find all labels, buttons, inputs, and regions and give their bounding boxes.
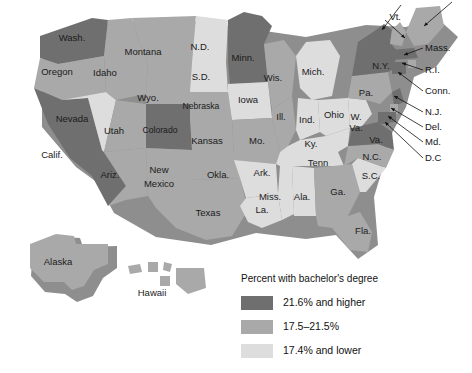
state-label-nc: N.C.: [363, 151, 382, 162]
legend-swatch-high: [241, 296, 273, 310]
state-label-ariz: Ariz.: [101, 169, 120, 180]
state-label-calif: Calif.: [41, 149, 63, 160]
state-rhodeisland: [408, 60, 416, 68]
state-label-mo: Mo.: [249, 135, 265, 146]
us-choropleth-map-figure: Wash.OregonIdahoMontanaWyo.N.D.S.D.Minn.…: [0, 0, 472, 373]
callout-label-del: Del.: [425, 121, 442, 132]
state-label-idaho: Idaho: [93, 67, 117, 78]
state-label-kansas: Kansas: [191, 135, 223, 146]
callout-label-md: Md.: [425, 136, 441, 147]
callout-label-mass: Mass.: [425, 42, 450, 53]
state-label-miss: Miss.: [259, 191, 281, 202]
callout-label-dc: D.C: [425, 152, 442, 163]
state-label-okla: Okla.: [207, 169, 229, 180]
state-label-ark: Ark.: [254, 167, 271, 178]
state-label-wyo: Wyo.: [137, 92, 159, 103]
state-label-ga: Ga.: [330, 186, 345, 197]
state-label-montana: Montana: [125, 46, 163, 57]
state-label-ohio: Ohio: [324, 109, 344, 120]
state-label-sd: S.D.: [192, 71, 210, 82]
state-label-la: La.: [255, 204, 268, 215]
state-label-utah: Utah: [104, 125, 124, 136]
state-label-alaska: Alaska: [44, 256, 73, 267]
state-label-nevada: Nevada: [56, 113, 89, 124]
map-canvas: Wash.OregonIdahoMontanaWyo.N.D.S.D.Minn.…: [0, 0, 472, 373]
state-label-va: Va.: [369, 134, 383, 145]
state-northdakota: [192, 16, 228, 62]
state-label-oregon: Oregon: [41, 66, 73, 77]
state-label-fla: Fla.: [355, 225, 371, 236]
legend-label-low: 17.4% and lower: [283, 344, 362, 356]
state-label-sc: S.C.: [362, 170, 380, 181]
state-label-iowa: Iowa: [238, 94, 259, 105]
state-label-wis: Wis.: [264, 72, 282, 83]
callout-label-ri: R.I.: [425, 64, 440, 75]
map-legend: Percent with bachelor's degree 21.6% and…: [241, 273, 378, 358]
state-label-colorado: Colorado: [143, 125, 178, 135]
state-label-nebraska: Nebraska: [183, 101, 220, 111]
callout-label-nj: N.J.: [425, 106, 442, 117]
legend-swatch-low: [241, 344, 273, 358]
state-label-texas: Texas: [196, 207, 221, 218]
state-label-ky: Ky.: [304, 138, 317, 149]
state-label-mich: Mich.: [302, 66, 325, 77]
state-label-newmexico2: Mexico: [144, 178, 174, 189]
state-label-ala: Ala.: [294, 191, 310, 202]
legend-label-high: 21.6% and higher: [283, 296, 366, 308]
state-label-pa: Pa.: [359, 87, 373, 98]
state-label-wash: Wash.: [59, 32, 86, 43]
state-label-ill: Ill.: [276, 111, 286, 122]
state-label-newmexico1: New: [149, 164, 168, 175]
state-label-ind: Ind.: [299, 114, 315, 125]
state-label-wva2: Va.: [349, 122, 363, 133]
state-massachusetts: [390, 48, 418, 60]
legend-title: Percent with bachelor's degree: [241, 273, 378, 284]
state-label-nd: N.D.: [191, 41, 210, 52]
legend-entries: 21.6% and higher17.5–21.5%17.4% and lowe…: [241, 296, 366, 358]
state-label-hawaii: Hawaii: [138, 287, 167, 298]
callout-label-conn: Conn.: [425, 85, 450, 96]
state-label-tenn: Tenn: [308, 157, 329, 168]
legend-swatch-mid: [241, 320, 273, 334]
state-label-ny: N.Y.: [372, 60, 389, 71]
state-label-wva1: W.: [350, 111, 361, 122]
legend-label-mid: 17.5–21.5%: [283, 320, 339, 332]
state-label-minn: Minn.: [231, 52, 254, 63]
